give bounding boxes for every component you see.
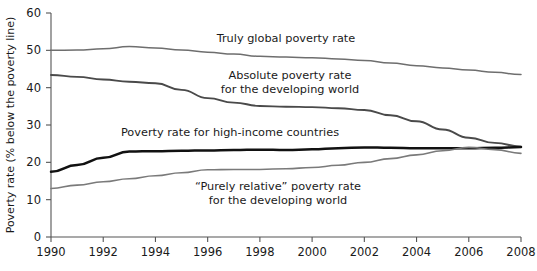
poverty-rate-line-chart: Poverty rate (% below the poverty line) …	[0, 0, 537, 271]
y-axis-title-text: Poverty rate (% below the poverty line)	[4, 17, 17, 234]
y-tick-label: 40	[26, 81, 41, 95]
annotation-absolute: Absolute poverty ratefor the developing …	[221, 69, 359, 96]
x-tick-label: 2002	[350, 245, 379, 259]
y-tick-label: 10	[26, 193, 41, 207]
x-tick-label: 2004	[402, 245, 431, 259]
annotation-truly_global: Truly global poverty rate	[216, 32, 356, 45]
annotation-line: “Purely relative” poverty rate	[195, 180, 361, 193]
y-axis-title: Poverty rate (% below the poverty line)	[4, 17, 17, 234]
y-tick-label: 30	[26, 118, 41, 132]
annotation-line: for the developing world	[221, 83, 359, 96]
y-tick-label: 0	[34, 230, 41, 244]
x-tick-label: 1992	[89, 245, 118, 259]
y-tick-label: 50	[26, 43, 41, 57]
x-tick-label: 2008	[506, 245, 535, 259]
annotation-line: for the developing world	[209, 194, 347, 207]
x-tick-label: 2006	[454, 245, 483, 259]
x-tick-label: 1996	[193, 245, 222, 259]
x-tick-label: 1994	[141, 245, 170, 259]
chart-canvas: Poverty rate (% below the poverty line) …	[0, 0, 537, 271]
annotation-high_income: Poverty rate for high-income countries	[121, 126, 339, 139]
y-tick-label: 60	[26, 6, 41, 20]
annotation-purely_relative: “Purely relative” poverty ratefor the de…	[195, 180, 361, 207]
annotation-line: Absolute poverty rate	[229, 69, 352, 82]
x-tick-label: 2000	[297, 245, 326, 259]
x-tick-label: 1998	[245, 245, 274, 259]
x-tick-label: 1990	[36, 245, 65, 259]
annotation-line: Truly global poverty rate	[216, 32, 356, 45]
y-tick-label: 20	[26, 155, 41, 169]
annotation-line: Poverty rate for high-income countries	[121, 126, 339, 139]
